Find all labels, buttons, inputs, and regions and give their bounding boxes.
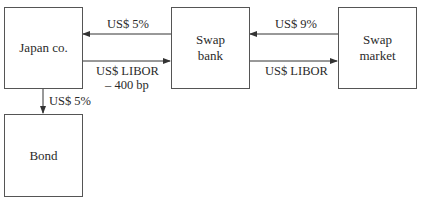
flow-label-japan-to-bank-2: – 400 bp	[105, 78, 149, 93]
node-bond-label: Bond	[29, 148, 57, 164]
node-swap-bank: Swap bank	[171, 7, 250, 89]
flow-label-japan-to-bank-1: US$ LIBOR	[96, 64, 159, 79]
node-swap-bank-line2: bank	[196, 48, 225, 64]
node-japan-co-label: Japan co.	[19, 40, 67, 56]
node-bond: Bond	[4, 114, 83, 197]
node-swap-market-line1: Swap	[359, 32, 395, 48]
flow-label-bank-to-market: US$ LIBOR	[265, 64, 328, 79]
node-swap-bank-line1: Swap	[196, 32, 225, 48]
node-swap-market: Swap market	[338, 7, 417, 89]
flow-label-bank-to-japan: US$ 5%	[107, 17, 149, 32]
node-swap-market-line2: market	[359, 48, 395, 64]
flow-label-market-to-bank: US$ 9%	[275, 17, 317, 32]
flow-label-japan-to-bond: US$ 5%	[49, 94, 91, 109]
node-japan-co: Japan co.	[4, 7, 83, 89]
